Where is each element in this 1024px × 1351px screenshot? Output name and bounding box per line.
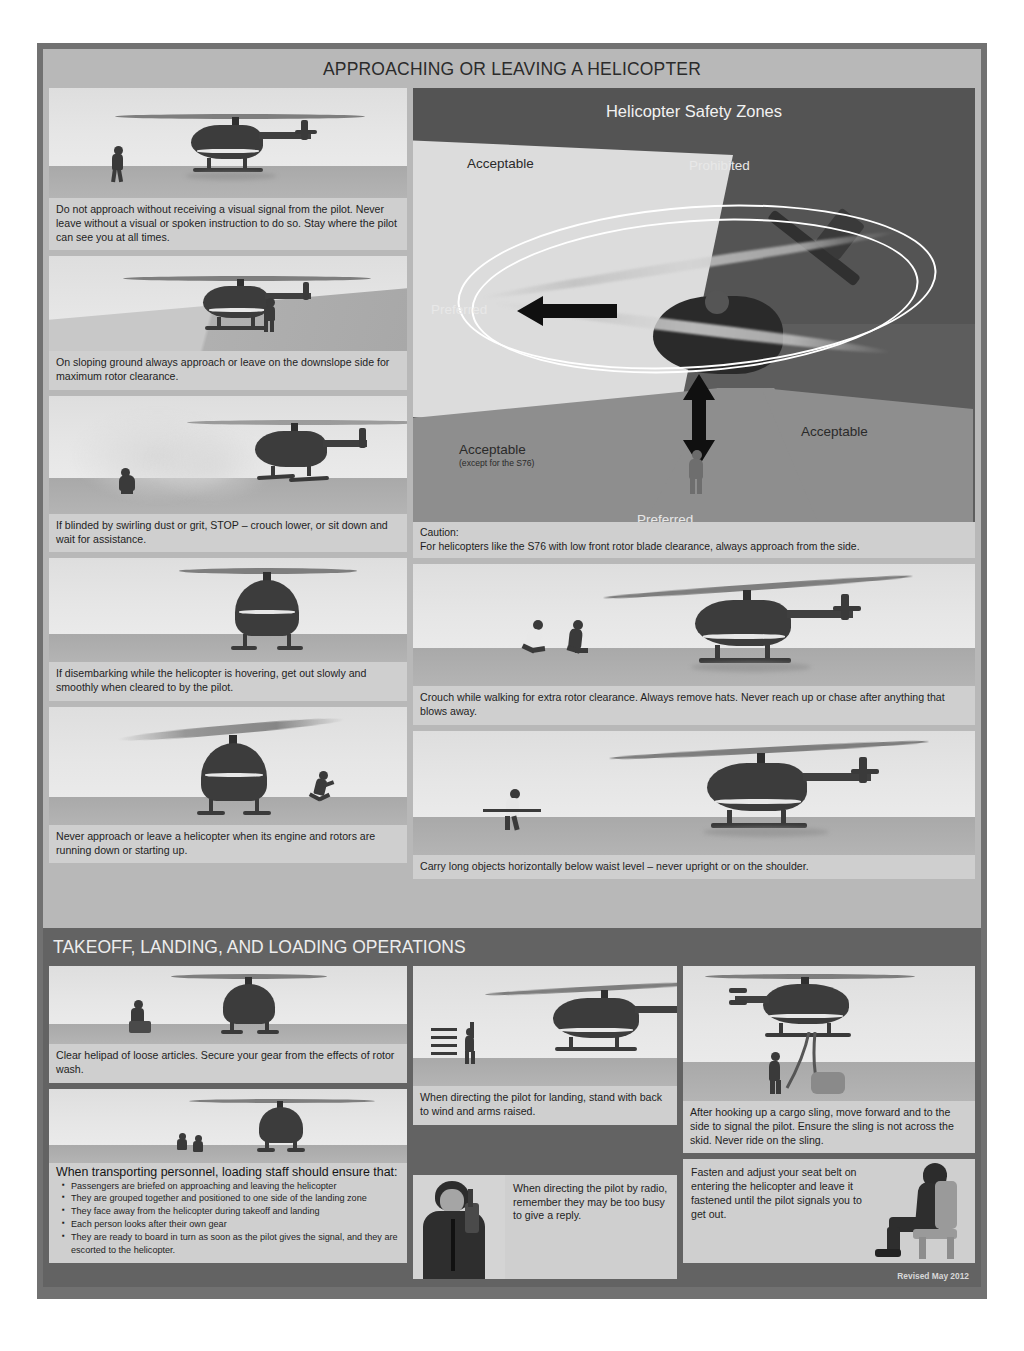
- approach-columns: Do not approach without receiving a visu…: [43, 88, 981, 891]
- person-illustration: [685, 450, 709, 496]
- takeoff-right-column: After hooking up a cargo sling, move for…: [683, 966, 975, 1285]
- panel-blinded-dust: If blinded by swirling dust or grit, STO…: [49, 396, 407, 553]
- section-approaching-leaving: APPROACHING OR LEAVING A HELICOPTER: [43, 49, 981, 928]
- illustration-sloping-ground: [49, 256, 407, 351]
- approach-right-column: Helicopter Safety Zones Acceptable Prohi…: [413, 88, 975, 885]
- helicopter-front-illustration: [207, 566, 327, 656]
- caption-clear-helipad: Clear helipad of loose articles. Secure …: [49, 1044, 407, 1083]
- list-item: They face away from the helicopter durin…: [63, 1205, 400, 1218]
- panel-transporting-personnel: When transporting personnel, loading sta…: [49, 1089, 407, 1263]
- illustration-long-objects: [413, 731, 975, 855]
- caption-crouch-while-walking: Crouch while walking for extra rotor cle…: [413, 686, 975, 725]
- illustration-dust: [49, 396, 407, 514]
- zones-caution: Caution: For helicopters like the S76 wi…: [413, 522, 975, 558]
- caption-blinded-dust: If blinded by swirling dust or grit, STO…: [49, 514, 407, 553]
- caption-engine-running-down: Never approach or leave a helicopter whe…: [49, 825, 407, 864]
- list-item: Each person looks after their own gear: [63, 1218, 400, 1231]
- panel-carry-long-objects: Carry long objects horizontally below wa…: [413, 731, 975, 880]
- illustration-clear-helipad: [49, 966, 407, 1044]
- helicopter-illustration: [227, 414, 387, 486]
- loading-heading: When transporting personnel, loading sta…: [49, 1163, 407, 1180]
- helicopter-illustration: [667, 743, 893, 843]
- panel-disembarking-hovering: If disembarking while the helicopter is …: [49, 558, 407, 701]
- caption-disembarking-hovering: If disembarking while the helicopter is …: [49, 662, 407, 701]
- helicopter-front-illustration: [167, 721, 317, 817]
- helicopter-illustration: [657, 578, 877, 674]
- approach-left-column: Do not approach without receiving a visu…: [49, 88, 407, 885]
- takeoff-columns: Clear helipad of loose articles. Secure …: [43, 966, 981, 1293]
- illustration-running-down: [49, 707, 407, 825]
- caption-seat-belt: Fasten and adjust your seat belt on ente…: [683, 1159, 871, 1263]
- zone-label-acceptable-top-left: Acceptable: [467, 156, 534, 171]
- person-running-illustration: [307, 771, 333, 813]
- safety-poster: APPROACHING OR LEAVING A HELICOPTER: [37, 43, 987, 1299]
- illustration-radio-operator: [413, 1175, 505, 1279]
- caption-directing-pilot-landing: When directing the pilot for landing, st…: [413, 1086, 677, 1125]
- zone-label-acceptable-bottom-left: Acceptable (except for the S76): [459, 442, 534, 468]
- caution-text: For helicopters like the S76 with low fr…: [420, 540, 968, 553]
- caption-cargo-sling: After hooking up a cargo sling, move for…: [683, 1101, 975, 1153]
- revised-date: Revised May 2012: [897, 1271, 969, 1281]
- zone-label-acceptable-except-s76: (except for the S76): [459, 458, 534, 468]
- person-illustration: [261, 298, 279, 332]
- cargo-load-illustration: [811, 1072, 845, 1094]
- panel-engine-running-down: Never approach or leave a helicopter whe…: [49, 707, 407, 864]
- list-item: Passengers are briefed on approaching an…: [63, 1180, 400, 1193]
- caption-sloping-ground: On sloping ground always approach or lea…: [49, 351, 407, 390]
- person-illustration: [109, 146, 127, 182]
- caption-carry-long-objects: Carry long objects horizontally below wa…: [413, 855, 975, 880]
- illustration-crouch-walking: [413, 564, 975, 686]
- helicopter-illustration: [155, 106, 325, 176]
- caption-visual-signal: Do not approach without receiving a visu…: [49, 198, 407, 250]
- panel-seat-belt: Fasten and adjust your seat belt on ente…: [683, 1159, 975, 1263]
- panel-directing-pilot-radio: When directing the pilot by radio, remem…: [413, 1175, 677, 1279]
- zone-label-acceptable-right: Acceptable: [801, 424, 868, 439]
- loading-bullet-list: Passengers are briefed on approaching an…: [49, 1180, 407, 1263]
- helicopter-illustration: [169, 270, 329, 336]
- panel-cargo-sling: After hooking up a cargo sling, move for…: [683, 966, 975, 1153]
- zone-label-acceptable-bottom-left-text: Acceptable: [459, 442, 526, 457]
- illustration-directing-landing: [413, 966, 677, 1086]
- helicopter-illustration: [531, 982, 677, 1054]
- illustration-seated-passenger: [871, 1159, 975, 1263]
- panel-visual-signal: Do not approach without receiving a visu…: [49, 88, 407, 250]
- zone-label-prohibited: Prohibited: [689, 158, 750, 173]
- person-with-gear-illustration: [129, 1000, 155, 1034]
- illustration-loading-personnel: [49, 1089, 407, 1163]
- zones-title: Helicopter Safety Zones: [413, 102, 975, 121]
- section-takeoff-landing-loading: TAKEOFF, LANDING, AND LOADING OPERATIONS: [43, 928, 981, 1287]
- arrow-horizontal-icon: [517, 294, 617, 328]
- caution-label: Caution:: [420, 526, 968, 539]
- panel-sloping-ground: On sloping ground always approach or lea…: [49, 256, 407, 390]
- person-crouch-walking-illustration: [565, 620, 591, 660]
- person-marshalling-illustration: [461, 1022, 481, 1066]
- helicopter-front-illustration: [197, 972, 301, 1034]
- person-crouch-walking-illustration: [521, 620, 549, 660]
- panel-clear-helipad: Clear helipad of loose articles. Secure …: [49, 966, 407, 1083]
- zone-label-preferred-left: Preferred: [431, 302, 487, 317]
- illustration-approach-signal: [49, 88, 407, 198]
- panel-directing-pilot-landing: When directing the pilot for landing, st…: [413, 966, 677, 1125]
- section-takeoff-title: TAKEOFF, LANDING, AND LOADING OPERATIONS: [43, 928, 981, 966]
- person-illustration: [767, 1052, 787, 1094]
- caption-directing-pilot-radio: When directing the pilot by radio, remem…: [505, 1175, 677, 1279]
- takeoff-left-column: Clear helipad of loose articles. Secure …: [49, 966, 407, 1285]
- list-item: They are ready to board in turn as soon …: [63, 1231, 400, 1257]
- panel-helicopter-safety-zones: Helicopter Safety Zones Acceptable Prohi…: [413, 88, 975, 558]
- helicopter-front-illustration: [235, 1097, 327, 1155]
- takeoff-middle-column: When directing the pilot for landing, st…: [413, 966, 677, 1285]
- person-crouching-illustration: [119, 468, 141, 498]
- illustration-hovering: [49, 558, 407, 662]
- illustration-cargo-sling: [683, 966, 975, 1101]
- seatbelt-panel-body: Fasten and adjust your seat belt on ente…: [683, 1159, 975, 1263]
- panel-crouch-while-walking: Crouch while walking for extra rotor cle…: [413, 564, 975, 725]
- section-approach-title: APPROACHING OR LEAVING A HELICOPTER: [43, 49, 981, 88]
- person-illustration: [191, 1135, 207, 1157]
- radio-panel-body: When directing the pilot by radio, remem…: [413, 1175, 677, 1279]
- person-illustration: [175, 1133, 191, 1155]
- person-carrying-object-illustration: [501, 789, 527, 831]
- diagram-safety-zones: Helicopter Safety Zones Acceptable Prohi…: [413, 88, 975, 558]
- list-item: They are grouped together and positioned…: [63, 1192, 400, 1205]
